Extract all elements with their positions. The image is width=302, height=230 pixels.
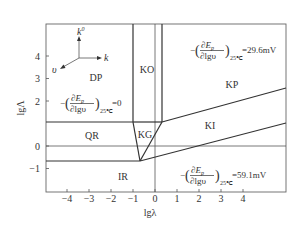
x-tick-label: −1 xyxy=(128,193,139,204)
equation-ir-numerator: ∂Ep xyxy=(191,165,204,176)
kg-right-boundary xyxy=(140,122,162,161)
x-tick-label: −2 xyxy=(106,193,117,204)
inset-label-v: υ xyxy=(52,64,57,75)
equation-ir-denominator: ∂lgυ xyxy=(190,176,206,186)
kp-ki-boundary xyxy=(162,88,286,122)
equation-dp-numerator: ∂Ep xyxy=(71,93,84,104)
kg-left-boundary xyxy=(133,122,140,161)
y-tick-label: 0 xyxy=(35,141,40,152)
x-tick-label: 3 xyxy=(219,193,224,204)
x-tick-label: 4 xyxy=(241,193,246,204)
x-axis-label: lgλ xyxy=(144,207,157,218)
region-label-kg: KG xyxy=(138,129,152,140)
equation-kp: −(∂Ep∂lgυ)25℃=29.6mV xyxy=(190,40,277,61)
inset-arrow-diagonal-icon xyxy=(60,65,66,70)
equation-kp-subscript: 25℃ xyxy=(230,55,243,61)
equation-ir-value: =59.1mV xyxy=(232,170,267,180)
equation-ir-subscript: 25℃ xyxy=(220,180,233,186)
equation-kp-numerator: ∂Ep xyxy=(201,40,214,51)
y-tick-label: 4 xyxy=(35,51,40,62)
equation-dp-subscript: 25℃ xyxy=(100,108,113,114)
region-label-ki: KI xyxy=(205,120,216,131)
region-label-kp: KP xyxy=(226,79,239,90)
equation-dp-value: =0 xyxy=(112,98,122,108)
inset-axis-diagonal xyxy=(63,58,79,67)
equation-dp-denominator: ∂lgυ xyxy=(70,104,86,114)
x-tick-label: 1 xyxy=(175,193,180,204)
lambda-phase-diagram: −4−3−2−101234 4320−1 lgλ lgΛ DP KO KP QR… xyxy=(0,0,302,230)
region-label-qr: QR xyxy=(85,130,99,141)
y-tick-label: 3 xyxy=(35,73,40,84)
equation-kp-denominator: ∂lgυ xyxy=(200,51,216,61)
y-tick-label: 2 xyxy=(35,96,40,107)
region-label-dp: DP xyxy=(90,72,103,83)
x-tick-label: 0 xyxy=(153,193,158,204)
inset-arrow-right-icon xyxy=(97,56,102,60)
region-label-ir: IR xyxy=(118,171,128,182)
inset-axes: k0 k υ xyxy=(52,26,109,75)
inset-label-k0: k0 xyxy=(77,26,84,37)
inset-label-k: k xyxy=(104,52,109,63)
equation-dp: −(∂Ep∂lgυ)25℃=0 xyxy=(60,93,122,114)
region-label-ko: KO xyxy=(140,64,154,75)
y-axis-label: lgΛ xyxy=(15,100,26,116)
x-axis-ticks: −4−3−2−101234 xyxy=(62,189,246,204)
x-tick-label: −3 xyxy=(84,193,95,204)
x-tick-label: 2 xyxy=(197,193,202,204)
x-tick-label: −4 xyxy=(62,193,73,204)
y-tick-label: −1 xyxy=(29,163,40,174)
equation-ir: −(∂Ep∂lgυ)25℃=59.1mV xyxy=(180,165,267,186)
equation-kp-value: =29.6mV xyxy=(242,45,277,55)
